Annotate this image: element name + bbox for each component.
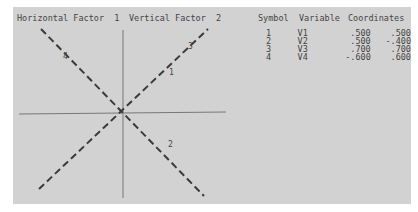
factor-plot-panel: Horizontal Factor 1 Vertical Factor 2 Sy…	[13, 7, 411, 204]
point-label-4: 4	[63, 52, 68, 61]
coordinates-table: 1 V1 .500 .500 2 V2 .500 -.400 3 V3 .700…	[258, 29, 411, 61]
table-row: 3 V3 .700 .700	[258, 45, 411, 53]
point-label-1: 1	[169, 68, 174, 77]
table-row: 4 V4 -.600 .600	[258, 53, 411, 61]
point-label-2: 2	[168, 140, 173, 149]
point-label-3: 3	[188, 42, 193, 51]
table-row: 2 V2 .500 -.400	[258, 37, 411, 45]
